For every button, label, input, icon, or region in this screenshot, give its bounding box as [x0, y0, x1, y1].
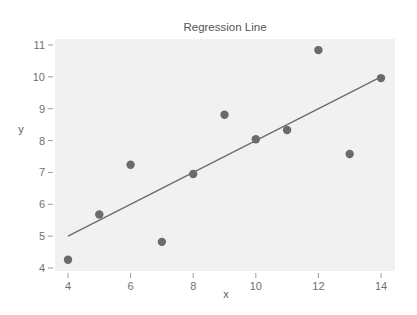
- data-point: [95, 210, 103, 218]
- x-tick-label: 14: [375, 280, 387, 292]
- data-point: [346, 150, 354, 158]
- data-point: [377, 74, 385, 82]
- y-tick-label: 10: [33, 71, 45, 83]
- x-tick-label: 6: [128, 280, 134, 292]
- plot-area: [55, 39, 395, 271]
- data-point: [64, 256, 72, 264]
- regression-chart: Regression Line4567891011468101214xy: [0, 0, 417, 315]
- x-axis-label: x: [223, 288, 229, 300]
- data-point: [189, 170, 197, 178]
- data-point: [283, 126, 291, 134]
- x-tick-label: 4: [65, 280, 71, 292]
- y-tick-label: 9: [39, 103, 45, 115]
- data-point: [158, 238, 166, 246]
- y-axis-label: y: [18, 123, 24, 135]
- chart-canvas: Regression Line4567891011468101214xy: [0, 0, 417, 315]
- y-tick-label: 4: [39, 262, 45, 274]
- data-point: [252, 135, 260, 143]
- y-tick-label: 11: [34, 39, 45, 51]
- data-point: [126, 161, 134, 169]
- data-point: [220, 111, 228, 119]
- chart-title: Regression Line: [183, 21, 266, 33]
- y-tick-label: 8: [39, 135, 45, 147]
- x-tick-label: 12: [312, 280, 324, 292]
- x-tick-label: 8: [190, 280, 196, 292]
- y-tick-label: 5: [39, 230, 45, 242]
- data-point: [314, 46, 322, 54]
- y-tick-label: 7: [39, 166, 45, 178]
- y-tick-label: 6: [39, 198, 45, 210]
- x-tick-label: 10: [250, 280, 262, 292]
